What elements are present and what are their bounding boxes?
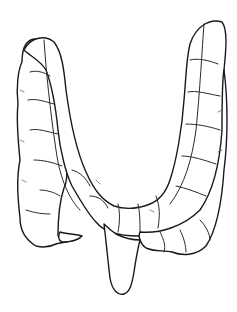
appendix [59, 232, 82, 242]
colon-illustration [0, 0, 237, 312]
colon-drawing [0, 0, 237, 312]
